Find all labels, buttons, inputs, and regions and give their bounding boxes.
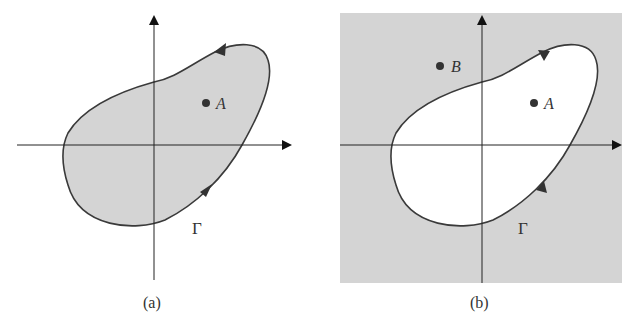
panel-a: A Γ (a) <box>17 17 290 312</box>
point-A-dot <box>530 99 538 107</box>
point-B-label: B <box>451 58 461 75</box>
point-A-label: A <box>215 95 226 112</box>
point-A-label: A <box>543 95 554 112</box>
panel-b: B A Γ (b) <box>340 13 622 312</box>
curve-label-gamma: Γ <box>518 219 528 238</box>
point-B-dot <box>436 62 444 70</box>
figure: A Γ (a) B A Γ (b) <box>0 0 634 330</box>
caption-a: (a) <box>143 294 161 312</box>
curve-label-gamma: Γ <box>192 219 202 238</box>
caption-b: (b) <box>470 294 489 312</box>
point-A-dot <box>202 99 210 107</box>
region-interior-shaded <box>63 45 270 226</box>
